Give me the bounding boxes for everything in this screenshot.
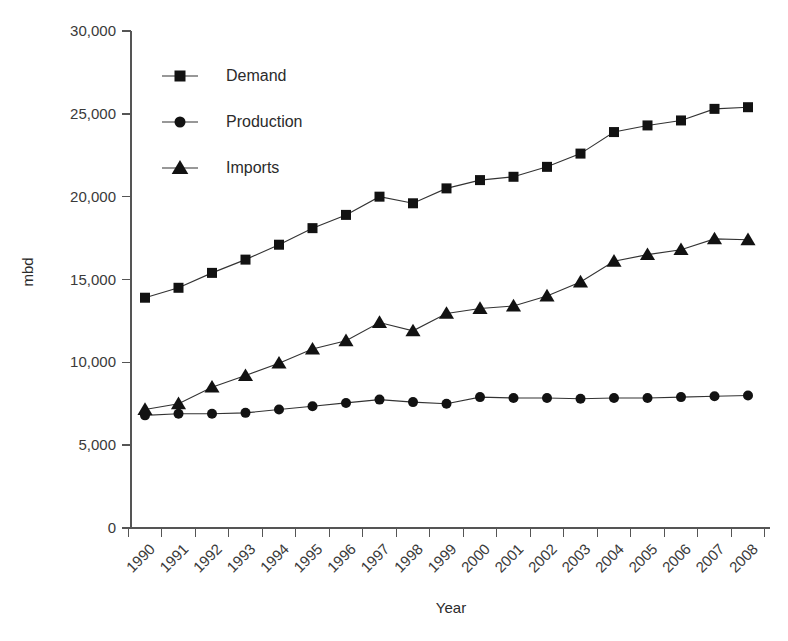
marker-square [475, 175, 485, 185]
legend-item-production[interactable]: Production [162, 113, 303, 130]
marker-square [140, 293, 150, 303]
x-tick-label: 2006 [659, 540, 695, 576]
marker-triangle [204, 380, 219, 393]
legend-label: Demand [226, 67, 286, 84]
data-series-group [137, 102, 755, 420]
marker-triangle [539, 289, 554, 302]
marker-triangle [673, 242, 688, 255]
series-production [140, 390, 753, 420]
marker-circle [643, 393, 653, 403]
marker-circle [174, 409, 184, 419]
marker-square [207, 268, 217, 278]
marker-square [174, 283, 184, 293]
marker-square [175, 71, 186, 82]
x-tick-label: 1995 [290, 540, 326, 576]
marker-triangle [372, 315, 387, 328]
marker-circle [609, 393, 619, 403]
series-imports [137, 232, 755, 415]
y-tick-label: 0 [108, 519, 116, 536]
line-chart: 05,00010,00015,00020,00025,00030,000 199… [0, 0, 788, 641]
x-tick-label: 1992 [190, 540, 226, 576]
y-axis-title: mbd [19, 257, 36, 286]
x-tick-label: 2005 [625, 540, 661, 576]
marker-triangle [338, 334, 353, 347]
marker-square [308, 223, 318, 233]
marker-triangle [172, 160, 189, 174]
marker-circle [241, 408, 251, 418]
x-tick-label: 2003 [558, 540, 594, 576]
marker-triangle [573, 275, 588, 288]
x-tick-label: 1990 [123, 540, 159, 576]
marker-square [576, 149, 586, 159]
marker-circle [408, 397, 418, 407]
x-tick-label: 2002 [525, 540, 561, 576]
marker-circle [274, 405, 284, 415]
marker-circle [207, 409, 217, 419]
legend-item-imports[interactable]: Imports [162, 159, 279, 176]
marker-square [710, 104, 720, 114]
x-tick-label: 2004 [592, 540, 628, 576]
marker-square [341, 210, 351, 220]
y-tick-label: 5,000 [78, 436, 116, 453]
y-tick-label: 30,000 [70, 22, 116, 39]
marker-triangle [740, 233, 755, 246]
x-tick-label: 2007 [692, 540, 728, 576]
y-axis-ticks: 05,00010,00015,00020,00025,00030,000 [70, 22, 131, 536]
legend-label: Production [226, 113, 303, 130]
x-tick-label: 1997 [357, 540, 393, 576]
marker-circle [375, 395, 385, 405]
marker-circle [509, 393, 519, 403]
series-line [145, 107, 748, 298]
series-line [145, 239, 748, 410]
legend-item-demand[interactable]: Demand [162, 67, 286, 84]
marker-circle [341, 398, 351, 408]
x-tick-label: 2001 [491, 540, 527, 576]
x-tick-label: 1998 [391, 540, 427, 576]
marker-square [509, 172, 519, 182]
y-tick-label: 25,000 [70, 105, 116, 122]
marker-square [274, 240, 284, 250]
marker-square [408, 198, 418, 208]
marker-square [542, 162, 552, 172]
marker-circle [743, 390, 753, 400]
x-tick-label: 2008 [726, 540, 762, 576]
marker-triangle [238, 368, 253, 381]
x-tick-label: 1999 [424, 540, 460, 576]
marker-square [676, 115, 686, 125]
marker-square [609, 127, 619, 137]
x-tick-label: 1994 [257, 540, 293, 576]
y-tick-label: 20,000 [70, 188, 116, 205]
x-axis-ticks: 1990199119921993199419951996199719981999… [123, 528, 765, 576]
marker-square [743, 102, 753, 112]
chart-legend: DemandProductionImports [162, 67, 303, 176]
marker-circle [175, 117, 186, 128]
marker-circle [308, 401, 318, 411]
marker-triangle [171, 397, 186, 410]
marker-circle [542, 393, 552, 403]
x-axis-title: Year [436, 599, 466, 616]
marker-circle [442, 399, 452, 409]
x-tick-label: 1991 [156, 540, 192, 576]
chart-figure: 05,00010,00015,00020,00025,00030,000 199… [0, 0, 788, 641]
marker-triangle [707, 232, 722, 245]
x-tick-label: 1996 [324, 540, 360, 576]
marker-circle [475, 392, 485, 402]
series-demand [140, 102, 753, 303]
marker-square [375, 192, 385, 202]
y-tick-label: 15,000 [70, 271, 116, 288]
marker-circle [710, 391, 720, 401]
marker-circle [576, 394, 586, 404]
marker-circle [676, 392, 686, 402]
marker-square [442, 183, 452, 193]
marker-square [643, 120, 653, 130]
marker-square [241, 255, 251, 265]
marker-triangle [271, 356, 286, 369]
marker-triangle [506, 299, 521, 312]
y-tick-label: 10,000 [70, 353, 116, 370]
x-tick-label: 2000 [458, 540, 494, 576]
x-tick-label: 1993 [223, 540, 259, 576]
legend-label: Imports [226, 159, 279, 176]
